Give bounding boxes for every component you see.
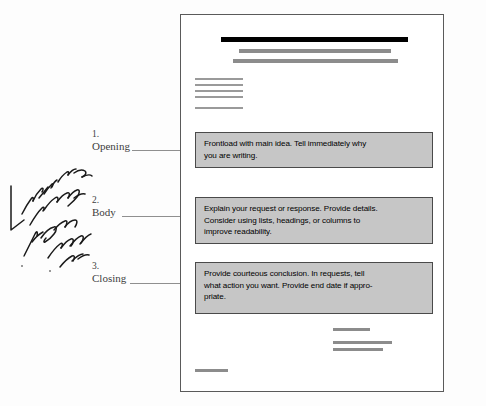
content-line: Frontload with main idea. Tell immediate… bbox=[204, 138, 425, 150]
heading-bar-main bbox=[221, 37, 408, 42]
signature-bar bbox=[333, 328, 370, 331]
callout-label-body: Body bbox=[92, 206, 116, 219]
heading-bar-tertiary bbox=[233, 59, 398, 63]
signature-bar bbox=[333, 341, 392, 344]
callout-label-opening: Opening bbox=[92, 140, 130, 153]
text-rule bbox=[195, 78, 243, 80]
callout-label-closing: Closing bbox=[92, 272, 126, 285]
text-rule bbox=[195, 96, 243, 98]
content-line: Provide courteous conclusion. In request… bbox=[204, 268, 425, 280]
screenshot-canvas: 1. Opening 2. Body 3. Closing Frontload … bbox=[0, 0, 486, 406]
callout-closing: 3. Closing bbox=[92, 260, 126, 285]
content-line: priate. bbox=[204, 291, 425, 303]
heading-bar-secondary bbox=[239, 49, 391, 53]
footer-bar bbox=[195, 369, 228, 372]
signature-bar bbox=[333, 348, 383, 351]
text-rule bbox=[195, 84, 243, 86]
content-line: what action you want. Provide end date i… bbox=[204, 280, 425, 292]
content-line: Explain your request or response. Provid… bbox=[204, 203, 425, 215]
callout-body: 2. Body bbox=[92, 194, 116, 219]
content-line: you are writing. bbox=[204, 150, 425, 162]
handwritten-annotation bbox=[8, 168, 100, 274]
content-box-body: Explain your request or response. Provid… bbox=[195, 197, 433, 244]
content-box-opening: Frontload with main idea. Tell immediate… bbox=[195, 132, 433, 168]
content-line: Consider using lists, headings, or colum… bbox=[204, 215, 425, 227]
callout-number-1: 1. bbox=[92, 128, 130, 140]
text-rule bbox=[195, 107, 243, 109]
callout-opening: 1. Opening bbox=[92, 128, 130, 153]
content-line: improve readability. bbox=[204, 226, 425, 238]
handwriting-ink bbox=[8, 168, 100, 274]
content-box-closing: Provide courteous conclusion. In request… bbox=[195, 262, 433, 314]
callout-number-3: 3. bbox=[92, 260, 126, 272]
document-page: Frontload with main idea. Tell immediate… bbox=[180, 14, 444, 392]
callout-number-2: 2. bbox=[92, 194, 116, 206]
text-rule bbox=[195, 90, 243, 92]
